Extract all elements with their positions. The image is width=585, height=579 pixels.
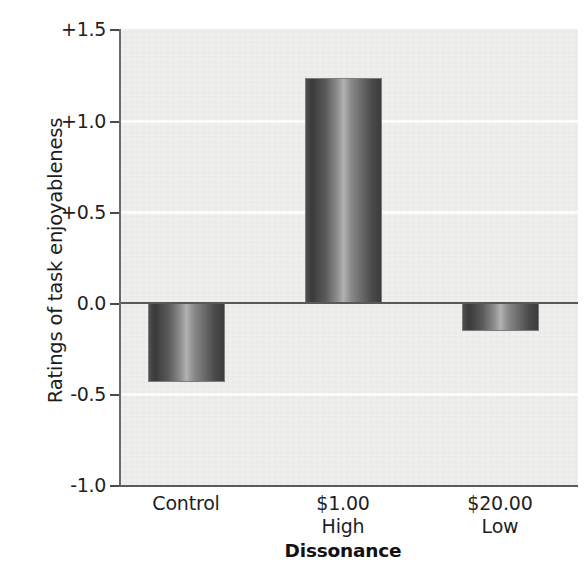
y-tick-label-4: 0.0 xyxy=(16,292,106,314)
x-tick-label-one-dollar: $1.00 High xyxy=(253,492,433,538)
x-tick-label-one-dollar-line2: High xyxy=(253,515,433,538)
y-axis-spine xyxy=(119,29,121,487)
x-tick-label-control: Control xyxy=(96,492,276,515)
chart-figure: Ratings of task enjoyableness +1.5 +1.0 … xyxy=(0,0,585,579)
x-tick-label-twenty-dollar-line2: Low xyxy=(410,515,585,538)
bar-twenty-dollar-low xyxy=(462,303,539,331)
bar-control xyxy=(148,303,225,382)
y-tick-label-1: +1.5 xyxy=(16,18,106,40)
y-tick-label-5: -0.5 xyxy=(16,383,106,405)
y-tick-label-6: -1.0 xyxy=(16,474,106,496)
y-tick-label-3: +0.5 xyxy=(16,201,106,223)
plot-area xyxy=(121,29,578,486)
gridline-neg0p5 xyxy=(121,393,578,396)
x-axis-spine xyxy=(119,485,578,487)
x-axis-title: Dissonance xyxy=(243,540,443,561)
x-tick-label-twenty-dollar: $20.00 Low xyxy=(410,492,585,538)
y-axis-tick-labels: +1.5 +1.0 +0.5 0.0 -0.5 -1.0 xyxy=(0,0,106,579)
zero-baseline xyxy=(121,302,578,304)
bar-one-dollar-high xyxy=(305,78,382,303)
y-tick-label-2: +1.0 xyxy=(16,110,106,132)
x-tick-label-twenty-dollar-line1: $20.00 xyxy=(410,492,585,515)
x-tick-label-one-dollar-line1: $1.00 xyxy=(253,492,433,515)
x-tick-label-control-line1: Control xyxy=(96,492,276,515)
